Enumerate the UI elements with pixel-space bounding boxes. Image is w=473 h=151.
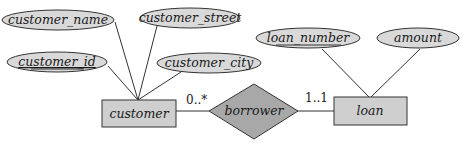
attribute-amount: amount bbox=[377, 28, 459, 48]
svg-text:loan_number: loan_number bbox=[267, 30, 351, 45]
attribute-customer-city: customer_city bbox=[157, 53, 261, 73]
svg-text:borrower: borrower bbox=[224, 103, 284, 118]
attribute-loan-number: loan_number bbox=[256, 28, 360, 48]
svg-text:customer_id: customer_id bbox=[18, 54, 96, 69]
relationship-borrower: borrower bbox=[209, 84, 298, 139]
cardinality-customer: 0..* bbox=[186, 93, 207, 107]
svg-text:customer_name: customer_name bbox=[8, 12, 108, 27]
attribute-customer-id: customer_id bbox=[7, 52, 107, 72]
er-diagram: customer_name customer_street customer_i… bbox=[0, 0, 473, 151]
svg-text:customer: customer bbox=[109, 106, 169, 121]
svg-text:customer_street: customer_street bbox=[139, 10, 243, 25]
entity-loan: loan bbox=[334, 97, 407, 125]
attribute-customer-name: customer_name bbox=[2, 10, 114, 30]
entity-customer: customer bbox=[102, 100, 176, 127]
svg-text:amount: amount bbox=[394, 30, 443, 45]
svg-text:customer_city: customer_city bbox=[165, 55, 255, 70]
svg-text:loan: loan bbox=[356, 103, 383, 118]
cardinality-loan: 1..1 bbox=[305, 91, 328, 105]
attribute-customer-street: customer_street bbox=[139, 8, 243, 28]
